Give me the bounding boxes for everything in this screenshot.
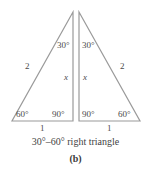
- right-vertical-leg-label: x: [83, 73, 87, 82]
- figure-part-label: (b): [0, 153, 151, 164]
- left-vertical-leg-label: x: [64, 73, 68, 82]
- right-base-right-angle-label: 60°: [118, 110, 131, 119]
- right-triangle-outline: [79, 12, 140, 121]
- figure-caption: 30°–60° right triangle: [0, 136, 151, 147]
- right-base-length-label: 1: [107, 124, 112, 133]
- left-triangle-outline: [12, 12, 73, 121]
- right-apex-angle-label: 30°: [82, 41, 95, 50]
- right-base-left-angle-label: 90°: [82, 110, 95, 119]
- left-base-length-label: 1: [40, 124, 45, 133]
- left-hypotenuse-label: 2: [25, 62, 30, 71]
- left-base-left-angle-label: 60°: [16, 110, 29, 119]
- left-apex-angle-label: 30°: [57, 41, 70, 50]
- left-base-right-angle-label: 90°: [52, 110, 65, 119]
- right-hypotenuse-label: 2: [120, 62, 125, 71]
- figure-30-60-right-triangle: 30° 2 x 60° 90° 1 30° 2 x 90° 60° 1 30°–…: [0, 0, 151, 172]
